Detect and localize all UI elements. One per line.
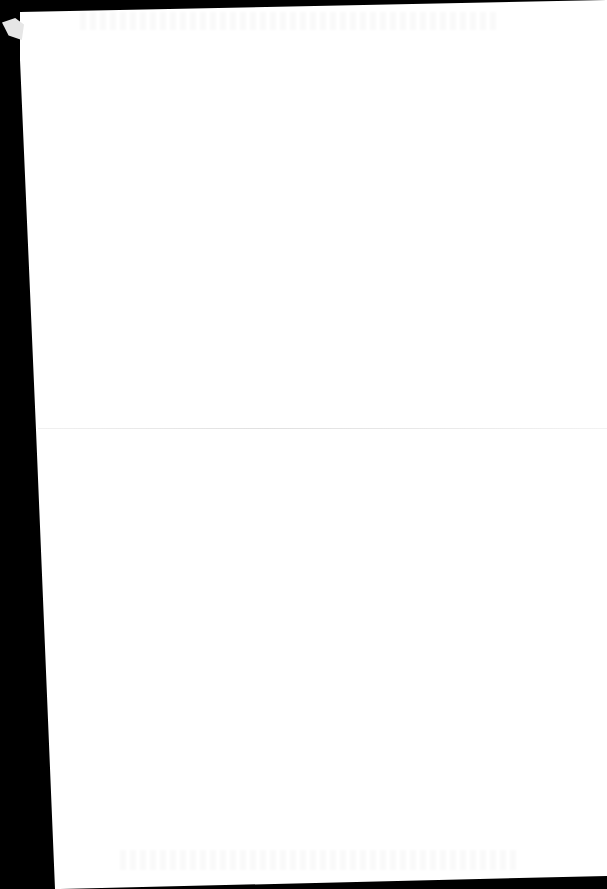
bleed-through-bottom: [120, 850, 520, 870]
bleed-through-top: [80, 12, 500, 30]
fold-line: [38, 428, 607, 429]
blank-page: [0, 0, 607, 889]
